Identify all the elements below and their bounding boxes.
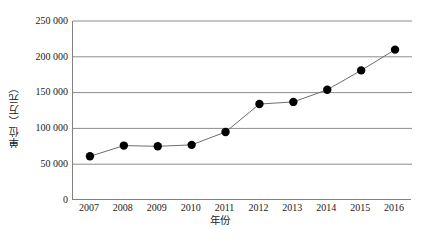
x-tick-label: 2012 [248, 203, 268, 213]
y-tick-label: 200 000 [24, 52, 68, 62]
x-tick-label: 2014 [316, 203, 336, 213]
y-axis-title: 单位（万元） [4, 60, 26, 170]
x-axis-title: 年份 [0, 216, 425, 227]
data-point [120, 141, 128, 149]
data-point [221, 128, 229, 136]
x-tick-label: 2009 [147, 203, 167, 213]
data-point [86, 152, 94, 160]
y-tick-label: 150 000 [24, 87, 68, 97]
y-tick-label: 250 000 [24, 16, 68, 26]
x-tick-label: 2010 [181, 203, 201, 213]
series-markers [86, 45, 399, 160]
data-point [323, 86, 331, 94]
data-point [154, 142, 162, 150]
x-tick-label: 2007 [79, 203, 99, 213]
x-tick-label: 2016 [384, 203, 404, 213]
y-axis-tick-labels: 250 000 200 000 150 000 100 000 50 000 0 [24, 0, 68, 251]
line-chart: 单位（万元） 250 000 200 000 150 000 100 000 5… [0, 0, 425, 251]
y-tick-label: 50 000 [24, 159, 68, 169]
y-axis-title-text: 单位（万元） [10, 82, 21, 148]
x-tick-label: 2008 [113, 203, 133, 213]
x-axis-title-text: 年份 [196, 215, 230, 226]
data-point [391, 45, 399, 53]
series-line [90, 50, 395, 157]
x-axis-tick-labels: 2007200820092010201120122013201420152016 [72, 203, 411, 217]
data-point [289, 98, 297, 106]
data-point [255, 100, 263, 108]
data-point [357, 66, 365, 74]
y-tick-label: 100 000 [24, 123, 68, 133]
x-tick-label: 2013 [282, 203, 302, 213]
y-tick-label: 0 [24, 195, 68, 205]
plot-svg [73, 21, 412, 200]
x-tick-label: 2015 [350, 203, 370, 213]
data-point [187, 141, 195, 149]
plot-area [72, 21, 411, 200]
x-tick-label: 2011 [215, 203, 235, 213]
